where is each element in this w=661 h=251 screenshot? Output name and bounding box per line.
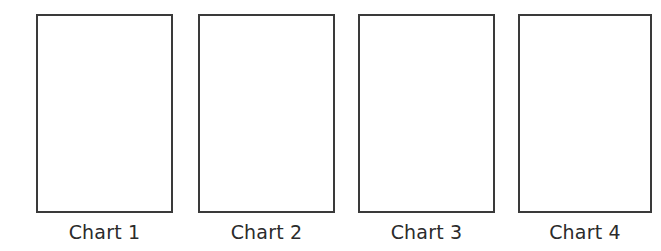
chart-caption-1: Chart 1 — [36, 220, 173, 244]
chart-slot: Chart 2 — [198, 0, 335, 251]
chart-caption-4: Chart 4 — [518, 220, 652, 244]
chart-frame-2[interactable] — [198, 14, 335, 213]
chart-frame-4[interactable] — [518, 14, 652, 213]
chart-frame-1[interactable] — [36, 14, 173, 213]
chart-placeholder-canvas: Chart 1 Chart 2 Chart 3 Chart 4 — [0, 0, 661, 251]
chart-slot: Chart 3 — [358, 0, 495, 251]
chart-caption-3: Chart 3 — [358, 220, 495, 244]
chart-slot: Chart 4 — [518, 0, 652, 251]
chart-frame-3[interactable] — [358, 14, 495, 213]
chart-caption-2: Chart 2 — [198, 220, 335, 244]
chart-slot: Chart 1 — [36, 0, 173, 251]
